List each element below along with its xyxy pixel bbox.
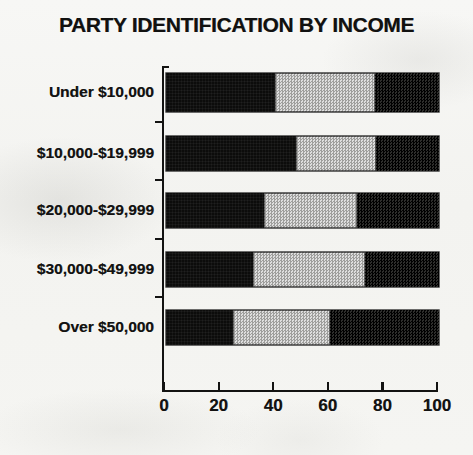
y-axis-tick [155, 238, 164, 240]
chart-title: PARTY IDENTIFICATION BY INCOME [0, 13, 473, 37]
bar-segment-1 [166, 193, 264, 228]
bar-segment-2 [233, 310, 330, 345]
category-label: $30,000-$49,999 [0, 260, 154, 278]
bar-segment-3 [330, 310, 439, 345]
party-identification-chart: PARTY IDENTIFICATION BY INCOME 020406080… [0, 0, 473, 455]
x-axis-tick-label: 60 [318, 396, 337, 416]
x-axis-tick-label: 40 [264, 396, 283, 416]
category-label: Under $10,000 [0, 83, 154, 101]
x-axis-tick-label: 0 [159, 396, 168, 416]
x-axis-tick [218, 382, 220, 391]
x-axis-tick [381, 382, 383, 391]
category-label: Over $50,000 [0, 318, 154, 336]
x-axis-tick [327, 382, 329, 391]
bar-segment-1 [166, 73, 275, 112]
bar-segment-3 [375, 73, 439, 112]
x-axis-tick-label: 20 [209, 396, 228, 416]
bar-segment-2 [253, 252, 365, 287]
bar-segment-2 [296, 136, 377, 171]
stacked-bar [166, 136, 439, 171]
category-label: $20,000-$29,999 [0, 201, 154, 219]
x-axis-tick [272, 382, 274, 391]
stacked-bar [166, 310, 439, 345]
stacked-bar [166, 193, 439, 228]
bar-segment-3 [357, 193, 439, 228]
y-axis-tick [155, 121, 164, 123]
bar-segment-2 [264, 193, 357, 228]
bar-segment-2 [275, 73, 375, 112]
y-axis-top-cap [162, 66, 169, 68]
x-axis-tick-label: 80 [373, 396, 392, 416]
bar-segment-3 [376, 136, 439, 171]
x-axis-tick [163, 382, 165, 391]
bar-segment-1 [166, 252, 253, 287]
bar-segment-3 [365, 252, 439, 287]
plot-area: 020406080100 [164, 66, 437, 390]
category-label: $10,000-$19,999 [0, 144, 154, 162]
y-axis-tick [155, 179, 164, 181]
bar-segment-1 [166, 136, 296, 171]
bar-segment-1 [166, 310, 233, 345]
stacked-bar [166, 252, 439, 287]
x-axis-tick-label: 100 [423, 396, 451, 416]
x-axis-tick [436, 382, 438, 391]
stacked-bar [166, 73, 439, 112]
y-axis-line [162, 66, 164, 390]
y-axis-tick [155, 296, 164, 298]
x-axis-line [162, 390, 438, 392]
